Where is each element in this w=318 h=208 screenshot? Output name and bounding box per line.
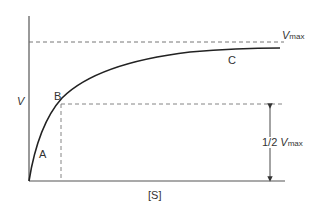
point-c-label: C xyxy=(228,55,236,66)
half-vmax-label: 1/2 Vmax xyxy=(262,137,303,148)
half-prefix: 1/2 xyxy=(262,136,280,148)
vmax-label: Vmax xyxy=(282,30,304,41)
saturation-curve xyxy=(29,48,280,181)
y-axis-label: V xyxy=(17,96,24,107)
x-axis-label: [S] xyxy=(148,190,161,201)
point-a-label: A xyxy=(39,149,46,160)
half-main: V xyxy=(280,136,287,148)
point-b-label: B xyxy=(54,91,61,102)
kinetics-diagram xyxy=(0,0,318,208)
vmax-sub: max xyxy=(289,32,304,41)
half-sub: max xyxy=(288,139,303,148)
